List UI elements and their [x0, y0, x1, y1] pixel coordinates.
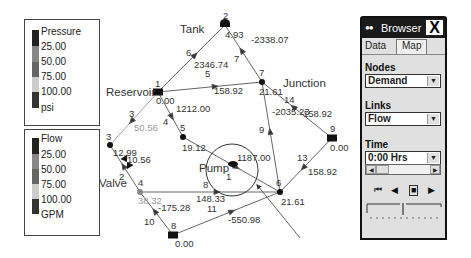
flow-color-1: [32, 154, 39, 169]
time-scrollbar[interactable]: ◀ ▶: [365, 164, 441, 175]
time-select[interactable]: 0:00 Hrs ▼: [365, 151, 441, 165]
scroll-left-button[interactable]: ◀: [366, 165, 376, 174]
node-id-label: 9: [330, 123, 335, 134]
link-value-label: 2346.74: [194, 59, 228, 70]
rewind-button[interactable]: ⏮: [374, 185, 382, 196]
time-select-value: 0:00 Hrs: [368, 152, 407, 163]
link-13-pipe[interactable]: [280, 138, 332, 192]
pressure-color-1: [32, 46, 39, 62]
node-value-label: 4.93: [225, 29, 244, 40]
close-button[interactable]: X: [425, 19, 444, 36]
node-value-label: 0.00: [156, 95, 175, 106]
pressure-color-3: [32, 77, 39, 92]
pressure-legend: Pressure 25.00 50.00 75.00 100.00 psi: [24, 19, 100, 126]
link-id-label: 3: [129, 108, 134, 119]
link-id-label: 8: [203, 179, 208, 190]
node-5-junction[interactable]: [180, 134, 186, 140]
browser-app-icon: ●●: [365, 23, 373, 32]
flow-color-4: [32, 199, 39, 214]
tab-data[interactable]: Data: [365, 40, 386, 51]
flow-color-0: [32, 138, 39, 154]
node-id-label: 1: [155, 78, 160, 89]
node-6-junction[interactable]: [277, 189, 283, 195]
node-value-label: 38.32: [138, 195, 162, 206]
tank-name-label: Tank: [180, 23, 205, 35]
nodes-select[interactable]: Demand ▼: [365, 74, 441, 88]
junction-name-label: Junction: [283, 77, 326, 89]
link-id-label: 13: [297, 152, 308, 163]
flow-tick: 75.00: [41, 179, 66, 190]
pressure-color-0: [32, 30, 39, 46]
pressure-tick: 75.00: [41, 71, 66, 82]
flow-arrow-icon: [168, 113, 175, 121]
valve-name-label: Valve: [99, 177, 127, 189]
link-id-label: 7: [234, 53, 239, 64]
link-value-label: -2338.07: [251, 34, 289, 45]
browser-panel: ●● Browser X Data Map Nodes Demand ▼ Lin…: [360, 16, 447, 240]
flow-tick: 25.00: [41, 149, 66, 160]
node-id-label: 2: [223, 10, 228, 21]
pressure-tick: 25.00: [41, 41, 66, 52]
node-value-label: 0.00: [330, 142, 349, 153]
node-id-label: 5: [180, 122, 185, 133]
node-id-label: 6: [276, 177, 281, 188]
pressure-unit: psi: [41, 102, 54, 113]
pressure-color-4: [32, 92, 39, 108]
speed-slider[interactable]: [366, 201, 442, 221]
link-value-label: 158.92: [308, 166, 337, 177]
link-5-pipe[interactable]: [158, 82, 262, 92]
links-select[interactable]: Flow ▼: [365, 112, 441, 126]
link-id-label: 14: [284, 94, 295, 105]
browser-titlebar[interactable]: ●● Browser X: [362, 18, 445, 38]
link-id-label: 9: [259, 124, 264, 135]
node-id-label: 8: [171, 220, 176, 231]
link-value-label: 50.56: [134, 122, 158, 133]
link-value-label: 158.92: [214, 85, 243, 96]
pressure-tick: 50.00: [41, 56, 66, 67]
scroll-right-button[interactable]: ▶: [430, 165, 440, 174]
nodes-label: Nodes: [365, 62, 396, 73]
flow-color-3: [32, 184, 39, 199]
flow-legend-title: Flow: [41, 133, 62, 144]
pressure-color-bar: [32, 30, 39, 108]
chevron-down-icon[interactable]: ▼: [427, 76, 439, 86]
pump-name-label: Pump: [199, 162, 229, 174]
flow-tick: 100.00: [41, 194, 72, 205]
slider-ticks: [371, 217, 437, 219]
link-value-label: 158.92: [303, 108, 332, 119]
time-label: Time: [365, 139, 388, 150]
link-id-label: 11: [207, 203, 217, 214]
link-id-label: 6: [186, 47, 191, 58]
link-id-label: 10: [144, 216, 155, 227]
stop-button[interactable]: ■: [409, 185, 418, 196]
reservoir-name-label: Reservoir: [106, 86, 155, 98]
flow-tick: 50.00: [41, 164, 66, 175]
node-value-label: 12.99: [113, 147, 137, 158]
browser-title: Browser: [381, 22, 421, 34]
flow-unit: GPM: [41, 209, 64, 220]
chevron-down-icon[interactable]: ▼: [427, 114, 439, 124]
node-value-label: 21.61: [281, 196, 305, 207]
link-id-label: 5: [205, 68, 210, 79]
link-value-label: -550.98: [228, 214, 260, 225]
chevron-down-icon[interactable]: ▼: [427, 153, 439, 163]
node-value-label: 21.61: [259, 86, 283, 97]
scroll-thumb[interactable]: [376, 165, 389, 174]
browser-tabs: Data Map: [362, 38, 445, 55]
nodes-select-value: Demand: [368, 75, 407, 86]
flow-arrow-icon: [267, 128, 273, 135]
link-value-label: 1212.00: [176, 103, 210, 114]
pressure-color-2: [32, 62, 39, 77]
flow-legend: Flow 25.00 50.00 75.00 100.00 GPM: [24, 129, 100, 236]
pressure-legend-title: Pressure: [41, 26, 81, 37]
link-11-pipe[interactable]: [173, 192, 280, 235]
tab-map[interactable]: Map: [396, 39, 427, 54]
link-9-pipe[interactable]: [262, 82, 280, 192]
flow-color-bar: [32, 138, 39, 214]
node-id-label: 3: [106, 131, 111, 142]
step-back-button[interactable]: ◀: [391, 185, 398, 195]
node-9-reservoir[interactable]: [327, 135, 337, 142]
pressure-tick: 100.00: [41, 86, 72, 97]
node-7-junction[interactable]: [259, 79, 265, 85]
play-button[interactable]: ▶: [428, 185, 435, 195]
